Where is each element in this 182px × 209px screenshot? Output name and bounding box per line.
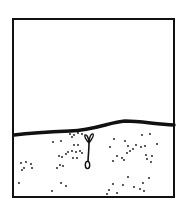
soil-speck — [23, 167, 25, 169]
soil-speck — [145, 154, 147, 156]
soil-speck — [77, 132, 79, 134]
soil-speck — [113, 138, 115, 140]
soil-speck — [51, 190, 53, 192]
seedling-diagram — [0, 0, 182, 209]
soil-speck — [146, 158, 148, 160]
soil-speck — [127, 176, 129, 178]
soil-speck — [79, 150, 81, 152]
soil-speck — [124, 140, 126, 142]
soil-speck — [20, 162, 22, 164]
soil-speck — [58, 155, 60, 157]
soil-speck — [106, 193, 108, 195]
soil-speck — [21, 169, 23, 171]
soil-speck — [135, 144, 137, 146]
soil-speck — [139, 188, 141, 190]
soil-speck — [123, 159, 125, 161]
soil-speck — [141, 134, 143, 136]
soil-speck — [52, 141, 54, 143]
seedling-right-leaf-icon — [89, 134, 93, 143]
soil-speck — [109, 146, 111, 148]
soil-speck — [65, 185, 67, 187]
soil-speck — [31, 167, 33, 169]
soil-speck — [71, 150, 73, 152]
soil-speck — [56, 167, 58, 169]
soil-speck — [59, 164, 61, 166]
soil-speck — [126, 152, 128, 154]
soil-speck — [129, 150, 131, 152]
seedling-stem — [88, 143, 89, 162]
soil-speck — [77, 144, 79, 146]
soil-speck — [143, 190, 145, 192]
soil-speck — [71, 136, 73, 138]
soil-speck — [108, 189, 110, 191]
soil-speck — [25, 161, 27, 163]
soil-speck — [76, 157, 78, 159]
soil-surface-line — [14, 121, 174, 135]
soil-speck — [112, 160, 114, 162]
soil-speck — [81, 152, 83, 154]
soil-speck — [30, 163, 32, 165]
soil-speck — [140, 146, 142, 148]
soil-speck — [121, 157, 123, 159]
soil-speck — [69, 133, 71, 135]
soil-speck — [73, 134, 75, 136]
diagram-canvas — [0, 0, 182, 209]
soil-speck — [75, 151, 77, 153]
soil-speck — [72, 157, 74, 159]
diagram-frame — [13, 19, 174, 197]
soil-speck — [18, 182, 20, 184]
soil-speck — [156, 143, 158, 145]
soil-speck — [149, 133, 151, 135]
soil-speck — [73, 144, 75, 146]
soil-speck — [116, 192, 118, 194]
soil-speck — [65, 153, 67, 155]
seedling — [85, 134, 94, 169]
soil-speck — [133, 186, 135, 188]
soil-speck — [60, 140, 62, 142]
soil-speck — [61, 156, 63, 158]
soil-speck — [112, 183, 114, 185]
soil-speck — [60, 182, 62, 184]
soil-speck — [132, 148, 134, 150]
soil-speck — [151, 155, 153, 157]
seed-icon — [85, 161, 89, 168]
soil-speck — [81, 133, 83, 135]
soil-speck — [62, 165, 64, 167]
soil-speck — [150, 161, 152, 163]
soil-speck — [148, 177, 150, 179]
soil-speck — [67, 151, 69, 153]
soil-speck — [116, 155, 118, 157]
soil-speck — [144, 145, 146, 147]
soil-speck — [127, 145, 129, 147]
soil-speck — [122, 184, 124, 186]
soil-speck — [142, 182, 144, 184]
